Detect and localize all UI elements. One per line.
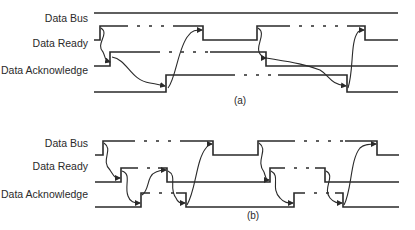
causality-arrow: [104, 143, 120, 178]
causality-arrow: [122, 171, 140, 203]
timing-diagram: Data BusData ReadyData Acknowledge(a)Dat…: [0, 0, 415, 230]
causality-arrow: [266, 58, 346, 86]
causality-arrow: [187, 144, 212, 205]
signal-data-bus: Data Bus: [45, 12, 398, 40]
waveform: [95, 168, 399, 182]
panel-caption: (b): [247, 210, 259, 221]
causality-arrow: [271, 171, 293, 203]
causality-arrow: [168, 171, 185, 203]
signal-data-acknowledge: Data Acknowledge: [1, 64, 398, 92]
causality-arrow: [101, 28, 110, 62]
signal-data-acknowledge: Data Acknowledge: [1, 188, 399, 207]
causality-arrow: [112, 57, 165, 86]
signal-data-ready: Data Ready: [33, 160, 399, 182]
causality-arrow: [326, 171, 342, 203]
causality-arrow: [168, 30, 202, 88]
signal-label: Data Acknowledge: [1, 64, 88, 76]
causality-arrow: [259, 143, 269, 180]
panel-a: Data BusData ReadyData Acknowledge(a): [1, 12, 398, 106]
causality-arrow: [344, 144, 376, 205]
signal-label: Data Bus: [45, 12, 88, 24]
waveform: [95, 193, 399, 207]
signal-label: Data Bus: [45, 137, 88, 149]
panel-b: Data BusData ReadyData Acknowledge(b): [1, 137, 399, 221]
causality-arrow: [348, 30, 364, 88]
causality-arrow: [142, 170, 166, 195]
signal-label: Data Ready: [33, 160, 89, 172]
waveform: [95, 141, 399, 155]
signal-data-ready: Data Ready: [33, 37, 398, 66]
panel-caption: (a): [234, 95, 246, 106]
waveform: [94, 75, 398, 92]
signal-label: Data Acknowledge: [1, 188, 88, 200]
causality-arrow: [258, 28, 266, 58]
waveform: [94, 26, 398, 40]
signal-label: Data Ready: [33, 37, 89, 49]
signal-data-bus: Data Bus: [45, 137, 399, 155]
